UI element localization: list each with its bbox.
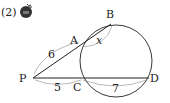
length-PC: 5 [54, 81, 61, 94]
secant-PB [33, 24, 111, 78]
label-A: A [69, 34, 79, 47]
length-CD: 7 [112, 82, 119, 95]
secant-diagram: P A B C D 6 x 5 7 [0, 0, 170, 103]
label-B: B [106, 8, 114, 21]
length-AB: x [96, 34, 103, 47]
length-PA: 6 [48, 48, 55, 61]
label-P: P [19, 72, 27, 85]
label-C: C [73, 81, 81, 94]
label-D: D [150, 72, 159, 85]
